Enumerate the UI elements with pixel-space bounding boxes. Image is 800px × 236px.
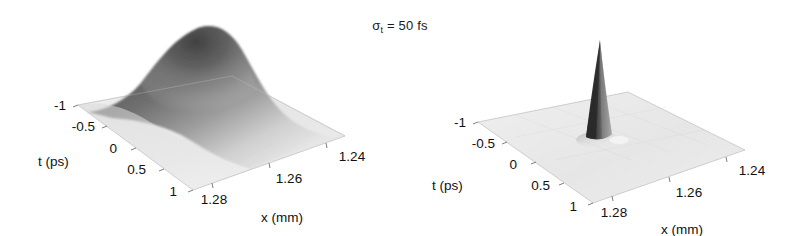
figure-container: σt = 50 fs xyxy=(0,0,800,236)
left-plot-svg: -1 -0.5 0 0.5 1 t (ps) 1.28 1.26 1.24 x … xyxy=(0,0,400,236)
right-surface-plot: -1 -0.5 0 0.5 1 t (ps) 1.28 1.26 1.24 x … xyxy=(400,0,800,236)
left-x-tick-2: 1.24 xyxy=(339,149,366,164)
right-t-tick-3: 0.5 xyxy=(531,178,550,193)
right-t-axis-title: t (ps) xyxy=(432,178,463,193)
left-t-tick-0: -1 xyxy=(54,98,66,113)
right-x-tick-0: 1.28 xyxy=(601,205,627,220)
left-t-tick-2: 0 xyxy=(109,141,117,156)
left-x-tick-0: 1.28 xyxy=(201,192,227,207)
right-base-plane xyxy=(478,92,745,203)
left-t-axis-title: t (ps) xyxy=(38,154,69,169)
right-t-tick-0: -1 xyxy=(454,115,466,130)
right-plot-svg: -1 -0.5 0 0.5 1 t (ps) 1.28 1.26 1.24 x … xyxy=(400,0,800,236)
left-t-tick-4: 1 xyxy=(169,184,177,199)
left-surface-plot: -1 -0.5 0 0.5 1 t (ps) 1.28 1.26 1.24 x … xyxy=(0,0,400,236)
right-t-tick-4: 1 xyxy=(569,199,577,214)
right-x-axis-title: x (mm) xyxy=(661,222,703,236)
right-spike-highlight xyxy=(609,136,629,144)
left-t-tick-1: -0.5 xyxy=(72,119,95,134)
left-x-tick-1: 1.26 xyxy=(276,171,302,186)
left-x-axis-title: x (mm) xyxy=(261,210,303,225)
left-t-tick-3: 0.5 xyxy=(127,162,146,177)
right-t-tick-1: -0.5 xyxy=(472,136,495,151)
right-t-tick-2: 0 xyxy=(509,157,517,172)
right-x-tick-1: 1.26 xyxy=(676,185,702,200)
right-x-tick-2: 1.24 xyxy=(739,163,766,178)
